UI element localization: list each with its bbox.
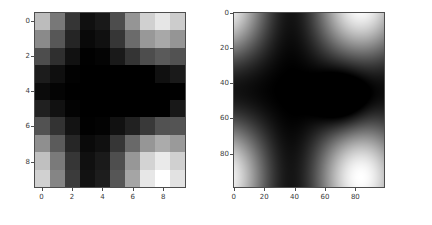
x-tick-label: 2 [70,193,74,201]
x-tick-label: 20 [260,193,269,201]
y-tick-mark [230,83,233,84]
y-tick-mark [31,162,34,163]
y-tick-mark [31,21,34,22]
x-tick-label: 40 [290,193,299,201]
plot-frame-right [233,12,385,188]
y-tick-label: 6 [14,122,30,130]
figure-canvas: 02468 02468 020406080 020406080 [0,0,432,225]
y-tick-label: 0 [213,9,229,17]
x-tick-mark [42,188,43,191]
y-tick-label: 0 [14,17,30,25]
heatmap-image-right [234,13,384,187]
y-tick-label: 40 [213,79,229,87]
y-tick-label: 60 [213,114,229,122]
x-tick-mark [102,188,103,191]
y-tick-mark [230,118,233,119]
y-tick-label: 8 [14,158,30,166]
x-tick-label: 4 [100,193,104,201]
y-tick-label: 4 [14,87,30,95]
axes-right-heatmap: 020406080 020406080 [233,12,385,188]
heatmap-image-left [35,13,185,187]
x-tick-mark [133,188,134,191]
x-tick-label: 6 [131,193,135,201]
x-tick-mark [295,188,296,191]
y-tick-label: 80 [213,150,229,158]
y-tick-mark [31,126,34,127]
y-tick-mark [230,154,233,155]
plot-frame-left [34,12,186,188]
y-tick-label: 2 [14,52,30,60]
x-tick-label: 0 [39,193,43,201]
x-tick-label: 80 [351,193,360,201]
y-tick-mark [230,48,233,49]
y-tick-label: 20 [213,44,229,52]
x-tick-label: 60 [320,193,329,201]
x-tick-mark [72,188,73,191]
y-tick-mark [230,13,233,14]
x-tick-mark [355,188,356,191]
x-tick-mark [325,188,326,191]
x-tick-label: 0 [232,193,236,201]
x-tick-mark [264,188,265,191]
x-tick-label: 8 [161,193,165,201]
x-tick-mark [163,188,164,191]
y-tick-mark [31,91,34,92]
x-tick-mark [234,188,235,191]
axes-left-heatmap: 02468 02468 [34,12,186,188]
y-tick-mark [31,56,34,57]
